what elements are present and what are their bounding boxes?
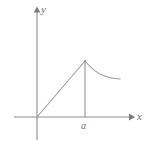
function-graph-figure: y x a: [0, 0, 152, 148]
y-axis-label: y: [41, 4, 46, 15]
decay-curve-segment: [85, 61, 120, 79]
graph-canvas: [0, 0, 152, 148]
rising-line-segment: [37, 61, 85, 117]
x-axis-label: x: [137, 111, 142, 122]
x-tick-label-a: a: [81, 121, 86, 131]
peak-vertex-point: [84, 60, 86, 62]
y-axis-arrow-icon: [34, 7, 41, 13]
x-axis-arrow-icon: [129, 114, 135, 121]
